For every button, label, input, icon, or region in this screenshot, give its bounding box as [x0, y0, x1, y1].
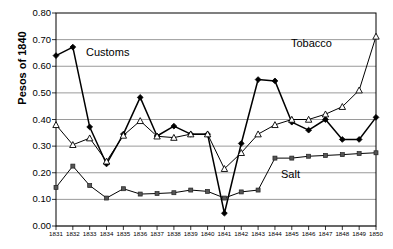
data-point-diamond	[53, 53, 59, 59]
data-point-triangle	[356, 87, 362, 93]
data-point-square	[323, 153, 327, 157]
series-line	[56, 47, 376, 213]
data-point-square	[189, 188, 193, 192]
data-point-square	[172, 191, 176, 195]
data-point-square	[121, 187, 125, 191]
chart-container: Pesos of 1840 0.800.700.600.500.400.300.…	[0, 0, 393, 249]
data-point-diamond	[255, 77, 261, 83]
data-point-diamond	[272, 78, 278, 84]
data-point-square	[340, 153, 344, 157]
data-point-triangle	[322, 111, 328, 117]
data-point-square	[374, 151, 378, 155]
gridlines	[56, 40, 376, 226]
data-point-square	[290, 156, 294, 160]
data-point-square	[273, 156, 277, 160]
data-point-square	[54, 185, 58, 189]
data-point-diamond	[222, 210, 228, 216]
data-point-square	[138, 192, 142, 196]
series-label-customs: Customs	[86, 47, 129, 58]
data-point-triangle	[373, 33, 379, 39]
data-point-triangle	[137, 118, 143, 124]
data-point-diamond	[70, 44, 76, 50]
data-point-square	[256, 188, 260, 192]
data-point-square	[206, 189, 210, 193]
data-point-square	[222, 196, 226, 200]
series-customs	[53, 44, 379, 216]
plot-area	[0, 0, 393, 249]
data-point-square	[88, 184, 92, 188]
x-axis-ticks	[56, 226, 376, 230]
data-point-square	[307, 154, 311, 158]
data-point-diamond	[238, 141, 244, 147]
data-point-triangle	[53, 122, 59, 128]
data-point-triangle	[255, 131, 261, 137]
series-label-salt: Salt	[281, 169, 300, 180]
y-axis-ticks	[52, 13, 56, 226]
data-point-triangle	[86, 135, 92, 141]
series-label-tobacco: Tobacco	[291, 38, 332, 49]
data-point-square	[357, 152, 361, 156]
data-point-square	[239, 190, 243, 194]
data-point-diamond	[87, 124, 93, 130]
data-point-square	[105, 196, 109, 200]
data-point-square	[71, 164, 75, 168]
data-point-diamond	[137, 95, 143, 101]
data-point-square	[155, 192, 159, 196]
